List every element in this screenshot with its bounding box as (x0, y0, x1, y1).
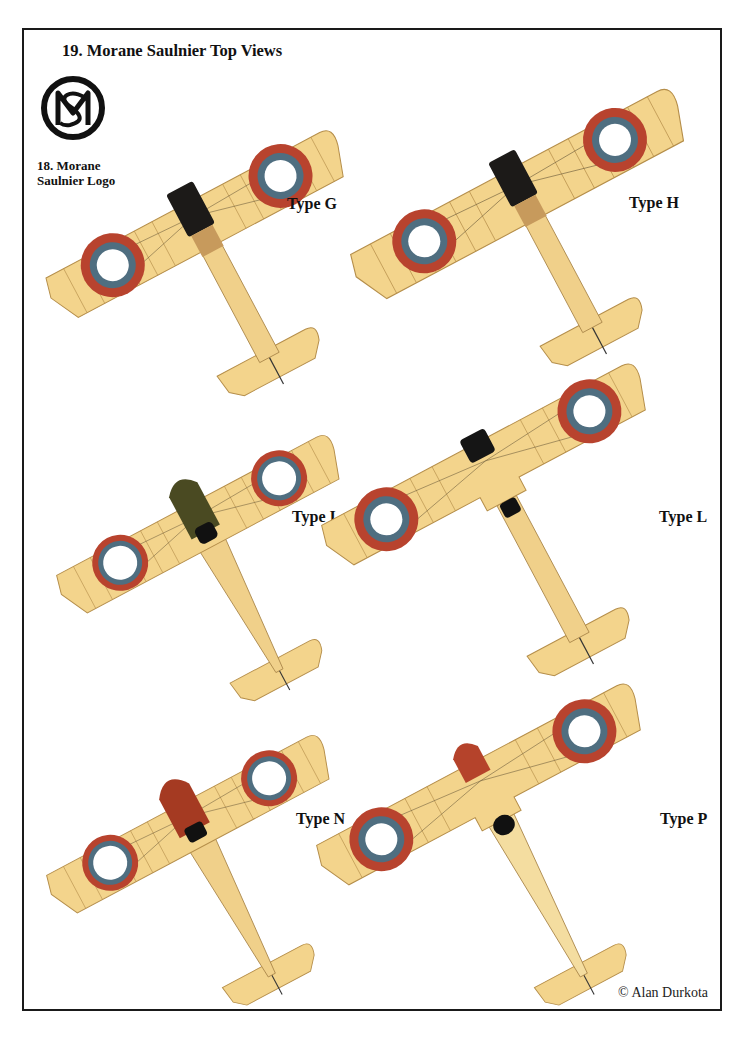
label-type-l: Type L (659, 508, 707, 526)
aircraft-type-n (32, 720, 352, 1010)
plate-frame: 19. Morane Saulnier Top Views 18. Morane… (22, 28, 722, 1011)
label-type-p: Type P (660, 810, 707, 828)
plate-title: 19. Morane Saulnier Top Views (62, 41, 282, 61)
aircraft-type-i (42, 415, 362, 715)
aircraft-type-p (324, 650, 724, 1020)
copyright-credit: © Alan Durkota (618, 985, 708, 1001)
label-type-h: Type H (629, 194, 679, 212)
aircraft-type-g (29, 75, 369, 395)
label-type-g: Type G (287, 195, 337, 213)
